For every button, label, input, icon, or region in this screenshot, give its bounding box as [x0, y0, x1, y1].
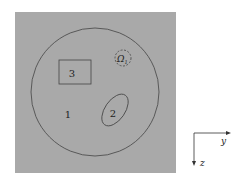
axis-indicator: y z [192, 131, 231, 168]
region-2-label: 2 [110, 108, 116, 119]
z-axis-label: z [199, 158, 205, 168]
region-1-label: 1 [65, 109, 71, 120]
diagram-canvas: 3 1 2 Ω1 y z [0, 0, 240, 185]
z-arrow-icon [192, 161, 196, 166]
domain-square [15, 12, 176, 173]
region-3-label: 3 [69, 68, 75, 79]
y-arrow-icon [226, 131, 231, 135]
y-axis-label: y [220, 136, 227, 146]
